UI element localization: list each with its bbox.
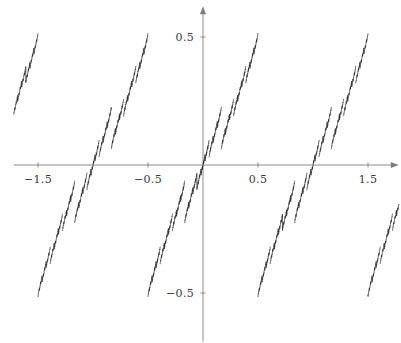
curve-segment <box>14 34 38 114</box>
curve-segment <box>185 140 209 222</box>
curve-segment <box>160 214 172 264</box>
figure-container: −1.5−0.50.51.50.5−0.5 <box>0 0 401 343</box>
curve-segment <box>62 181 74 230</box>
x-axis-tick-label: 1.5 <box>359 173 377 186</box>
curve-segment <box>380 214 392 263</box>
curve-segment <box>356 34 368 83</box>
curve-segment <box>258 247 270 297</box>
curve-segment <box>319 107 331 156</box>
y-axis-arrow-icon <box>200 6 206 14</box>
x-axis-tick-label: 0.5 <box>249 173 267 186</box>
curve-segment <box>295 173 307 222</box>
curve-segment <box>209 107 221 157</box>
curve-segment <box>234 67 246 116</box>
y-axis-tick-label: 0.5 <box>0 31 194 44</box>
curve-segment <box>50 214 62 263</box>
y-axis-tick-label: −0.5 <box>0 287 194 300</box>
curve-segment <box>368 247 380 296</box>
curve-segment <box>111 99 123 148</box>
curve-segment <box>221 99 233 149</box>
curve-segment <box>344 66 356 115</box>
curve-segment <box>172 181 184 231</box>
curve-segment <box>392 204 398 230</box>
curve-segment <box>75 173 87 222</box>
curve-segment <box>246 33 258 82</box>
curve-segment <box>331 99 343 148</box>
x-axis-tick-label: −1.5 <box>24 173 52 186</box>
x-axis-arrow-icon <box>391 162 399 168</box>
curve-segment <box>270 181 294 263</box>
curve-segment <box>99 107 111 156</box>
x-axis-tick-label: −0.5 <box>134 173 162 186</box>
curve-segment <box>124 66 136 116</box>
